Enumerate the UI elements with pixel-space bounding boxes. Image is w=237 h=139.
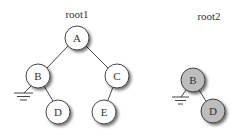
node-c: C (105, 64, 129, 88)
tree-diagram: root1 A B C D (0, 0, 237, 139)
edge-c-e (108, 87, 113, 100)
edge-a-c (86, 46, 108, 68)
svg-text:D: D (209, 105, 217, 117)
edge-b-d (44, 86, 53, 101)
svg-text:B: B (34, 70, 41, 82)
node-d: D (46, 100, 70, 124)
svg-text:A: A (73, 32, 81, 44)
null-pointer-icon (172, 90, 189, 104)
node-a: A (65, 26, 89, 50)
svg-text:D: D (54, 106, 62, 118)
svg-text:C: C (113, 70, 120, 82)
node-d-root2: D (201, 99, 225, 123)
node-e: E (92, 100, 116, 124)
edge-a-b (47, 46, 68, 68)
svg-text:B: B (189, 74, 196, 86)
edge-b-d-root2 (199, 90, 206, 101)
null-pointer-icon (14, 86, 33, 100)
tree-root2: root2 B D (172, 10, 225, 123)
node-b-root2: B (181, 68, 205, 92)
node-b: B (26, 64, 50, 88)
tree-root1: root1 A B C D (14, 8, 129, 124)
svg-text:E: E (101, 106, 108, 118)
root1-label: root1 (65, 8, 88, 20)
root2-label: root2 (197, 10, 220, 22)
